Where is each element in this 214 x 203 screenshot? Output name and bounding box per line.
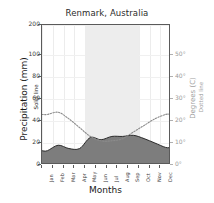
y-tick-label: 200: [12, 20, 40, 27]
y2-tick-mark: [170, 54, 173, 55]
chart-title: Renmark, Australia: [0, 8, 214, 18]
x-tick-mark: [127, 165, 128, 168]
plot-area: [41, 24, 170, 164]
y-tick-label: 60: [12, 94, 40, 101]
y2-tick-label: 30°: [175, 94, 197, 101]
y-tick-label: 0: [12, 160, 40, 167]
x-month-label: Jun: [102, 174, 108, 182]
y2-tick-mark: [170, 164, 173, 165]
x-tick-mark: [116, 165, 117, 168]
y-tick-label: 80: [12, 72, 40, 79]
precipitation-area: [42, 135, 170, 164]
x-month-label: May: [91, 172, 97, 182]
x-tick-mark: [149, 165, 150, 168]
y2-tick-label: 40°: [175, 72, 197, 79]
y2-tick-label: 10°: [175, 138, 197, 145]
y2-tick-mark: [170, 120, 173, 121]
x-month-label: Sep: [134, 173, 140, 182]
x-month-label: Oct: [145, 173, 151, 182]
x-month-label: Dec: [167, 172, 173, 182]
x-axis-month-labels: JanFebMarAprMayJunJulAugSepOctNovDec: [41, 165, 170, 185]
x-tick-mark: [41, 165, 42, 168]
x-tick-mark: [95, 165, 96, 168]
y-tick-label: 100: [12, 50, 40, 57]
x-tick-mark: [52, 165, 53, 168]
y2-tick-mark: [170, 142, 173, 143]
x-month-label: Feb: [59, 173, 65, 182]
x-month-label: Apr: [81, 173, 87, 182]
y2-axis-sublabel: Dotted line: [198, 32, 204, 162]
x-tick-mark: [73, 165, 74, 168]
x-month-label: Nov: [156, 172, 162, 182]
climate-chart: Renmark, Australia Precipitation (mm) So…: [0, 0, 214, 203]
y2-tick-mark: [170, 76, 173, 77]
x-month-label: Mar: [70, 173, 76, 182]
y2-tick-mark: [170, 98, 173, 99]
x-tick-mark: [63, 165, 64, 168]
x-axis-label: Months: [41, 185, 170, 195]
x-month-label: Aug: [124, 172, 130, 182]
x-tick-mark: [106, 165, 107, 168]
x-tick-mark: [159, 165, 160, 168]
y2-tick-label: 50°: [175, 50, 197, 57]
x-month-label: Jul: [113, 176, 119, 182]
temperature-dotted-line: [42, 112, 170, 141]
y2-tick-label: 0°: [175, 160, 197, 167]
x-month-label: Jan: [48, 174, 54, 182]
y-tick-label: 20: [12, 138, 40, 145]
x-tick-mark: [138, 165, 139, 168]
plot-series: [42, 25, 170, 164]
y-tick-label: 40: [12, 116, 40, 123]
y2-tick-label: 20°: [175, 116, 197, 123]
x-tick-mark: [84, 165, 85, 168]
